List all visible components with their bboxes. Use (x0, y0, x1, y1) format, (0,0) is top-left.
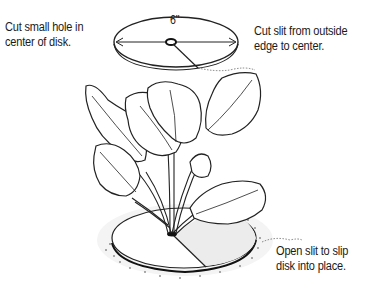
callout-place-line2: disk into place. (276, 259, 348, 274)
callout-slit-line1: Cut slit from outside (254, 24, 348, 39)
callout-hole-line2: center of disk. (5, 35, 83, 50)
callout-place: Open slit to slip disk into place. (276, 244, 348, 274)
dimension-label: 6" (170, 13, 180, 27)
callout-hole: Cut small hole in center of disk. (5, 20, 83, 50)
callout-place-line1: Open slit to slip (276, 244, 348, 259)
plant-leaves (86, 73, 266, 224)
callout-slit-line2: edge to center. (254, 39, 348, 54)
callout-slit: Cut slit from outside edge to center. (254, 24, 348, 54)
callout-hole-line1: Cut small hole in (5, 20, 83, 35)
top-disk (114, 17, 255, 71)
